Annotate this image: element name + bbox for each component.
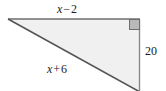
label-top-operator: − (62, 2, 71, 16)
right-triangle-figure: x−2 x+6 20 (0, 0, 166, 91)
label-top-side: x−2 (57, 3, 77, 15)
label-hypotenuse: x+6 (47, 63, 67, 75)
label-hypotenuse-number: 6 (61, 62, 67, 76)
label-top-number: 2 (71, 2, 77, 16)
right-angle-marker-icon (130, 20, 140, 30)
triangle-graphic (0, 0, 166, 91)
label-right-side: 20 (145, 45, 157, 57)
label-hypotenuse-operator: + (52, 62, 61, 76)
